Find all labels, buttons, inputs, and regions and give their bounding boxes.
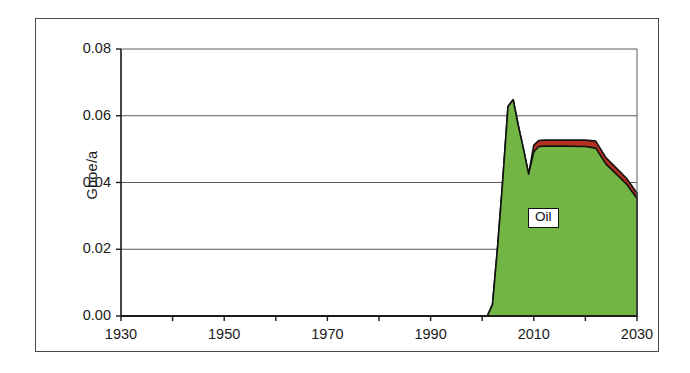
x-tick-label: 2010 [504,326,564,342]
y-tick-label: 0.06 [59,107,111,123]
y-tick-label: 0.08 [59,40,111,56]
figure-outer-frame: Gboe/a 0.000.020.040.060.08 193019501970… [35,18,659,352]
area-series-oil [121,100,637,316]
y-tick-label: 0.02 [59,240,111,256]
x-tick-label: 2030 [607,326,667,342]
y-tick-label: 0.04 [59,174,111,190]
y-tick-label: 0.00 [59,307,111,323]
x-tick-label: 1950 [194,326,254,342]
chart-plot-area [36,19,660,353]
x-tick-label: 1930 [91,326,151,342]
figure-container: Gboe/a 0.000.020.040.060.08 193019501970… [0,0,690,373]
series-annotation-oil: Oil [528,208,559,228]
x-tick-label: 1990 [401,326,461,342]
x-tick-label: 1970 [297,326,357,342]
data-areas-group [121,100,637,316]
